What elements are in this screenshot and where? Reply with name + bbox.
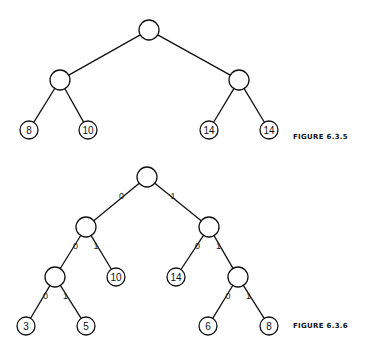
tree-edge [94, 183, 140, 220]
node-weight: 14 [263, 125, 275, 136]
internal-node [199, 217, 219, 237]
internal-node [76, 217, 96, 237]
internal-node [50, 70, 70, 90]
tree-diagrams: 8101414010101010110143568 [0, 0, 376, 353]
edge-label: 1 [93, 241, 98, 251]
tree-figure-1: 8101414 [20, 20, 278, 139]
node-weight: 6 [205, 321, 211, 332]
tree-edge [181, 235, 204, 269]
edge-label: 0 [225, 291, 230, 301]
node-weight: 5 [83, 321, 89, 332]
edge-label: 1 [216, 241, 221, 251]
edge-label: 0 [43, 291, 48, 301]
figure-caption: FIGURE 6.3.6 [293, 322, 348, 330]
tree-edge [34, 88, 55, 122]
tree-edge [214, 89, 234, 123]
figure-caption: FIGURE 6.3.5 [293, 133, 348, 141]
internal-node [228, 267, 248, 287]
tree-figure-2: 010101010110143568 [17, 167, 278, 335]
edge-label: 1 [63, 291, 68, 301]
node-weight: 10 [82, 125, 94, 136]
edge-label: 0 [73, 241, 78, 251]
node-weight: 3 [23, 321, 29, 332]
internal-node [229, 70, 249, 90]
node-weight: 8 [266, 321, 272, 332]
edge-label: 1 [170, 191, 175, 201]
node-weight: 10 [110, 272, 122, 283]
edge-label: 0 [119, 191, 124, 201]
internal-node [139, 20, 159, 40]
tree-edge [244, 89, 264, 123]
node-weight: 8 [26, 125, 32, 136]
tree-edge [155, 183, 201, 220]
node-weight: 14 [170, 272, 182, 283]
tree-edge [65, 89, 84, 122]
internal-node [137, 167, 157, 187]
edge-label: 1 [246, 291, 251, 301]
tree-edge [158, 35, 231, 75]
tree-edge [69, 35, 141, 75]
node-weight: 14 [203, 125, 215, 136]
internal-node [45, 267, 65, 287]
edge-label: 0 [195, 241, 200, 251]
